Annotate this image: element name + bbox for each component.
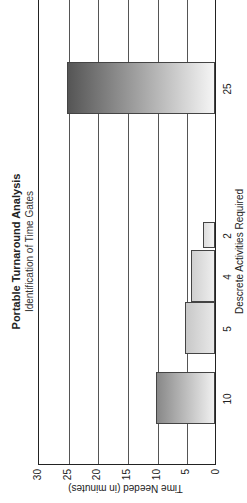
chart-title: Portable Turnaround Analysis — [10, 0, 22, 503]
y-tick-label: 10 — [151, 469, 162, 487]
chart-subtitle: Identification of Time Gates — [24, 0, 35, 503]
bar — [203, 222, 215, 248]
bar — [191, 250, 215, 302]
y-tick-label: 25 — [62, 469, 73, 487]
x-axis-label: Descrete Activities Required — [234, 0, 245, 503]
plot-area — [38, 0, 216, 465]
x-tick-label: 25 — [222, 69, 233, 109]
chart-rotated: Portable Turnaround Analysis Identificat… — [0, 0, 247, 503]
y-tick-label: 30 — [32, 469, 43, 487]
y-tick-label: 20 — [91, 469, 102, 487]
x-tick-label: 10 — [222, 379, 233, 419]
bar — [67, 62, 215, 114]
y-tick-label: 15 — [121, 469, 132, 487]
y-tick-label: 0 — [210, 469, 221, 487]
x-tick-label: 4 — [222, 257, 233, 297]
bar — [185, 302, 215, 354]
bar — [156, 372, 215, 424]
x-tick-label: 2 — [222, 216, 233, 256]
y-tick-label: 5 — [180, 469, 191, 487]
x-tick-label: 5 — [222, 309, 233, 349]
